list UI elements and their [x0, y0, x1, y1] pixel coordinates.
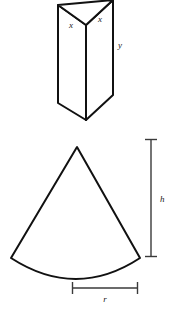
cone-net-figure: [11, 147, 140, 279]
radius-dimension-group: r: [72, 282, 138, 304]
height-dimension-group: h: [145, 139, 165, 257]
prism-edge-label-x-left: x: [68, 20, 73, 30]
cone-net-sector-shape: [11, 147, 140, 279]
height-dimension-label: h: [160, 194, 165, 204]
radius-dimension-label: r: [103, 294, 107, 304]
triangular-prism-figure: x x y: [58, 0, 122, 120]
prism-height-label-y: y: [117, 40, 122, 50]
figure-page: x x y h r: [0, 0, 174, 314]
prism-edge-label-x-right: x: [97, 14, 102, 24]
geometry-figure-canvas: x x y h r: [0, 0, 174, 314]
